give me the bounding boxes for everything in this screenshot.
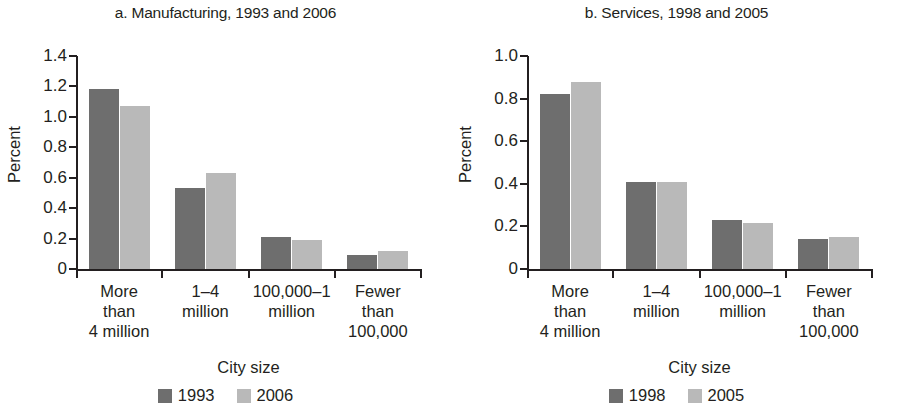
legend-swatch-icon bbox=[688, 389, 702, 403]
y-axis-tick-label-wrap: 1.0 bbox=[0, 108, 67, 125]
x-axis-tick bbox=[785, 269, 787, 278]
x-axis-tick bbox=[527, 269, 529, 278]
bar-2005-1 bbox=[657, 182, 687, 269]
x-axis-tick bbox=[699, 269, 701, 278]
y-axis-tick-label: 0 bbox=[456, 260, 518, 277]
x-axis-tick bbox=[248, 269, 250, 278]
panel-a-x-axis-title: City size bbox=[76, 358, 421, 377]
y-axis-tick bbox=[69, 55, 77, 57]
y-axis-tick-label: 0.8 bbox=[5, 138, 67, 155]
panel-b-legend: 19982005 bbox=[451, 386, 902, 405]
y-axis-tick-label-wrap: 1.0 bbox=[451, 47, 518, 64]
legend-item-2006[interactable]: 2006 bbox=[237, 386, 294, 405]
y-axis-tick bbox=[69, 207, 77, 209]
bar-1998-1 bbox=[626, 182, 656, 269]
y-axis-tick-label-wrap: 0.8 bbox=[451, 90, 518, 107]
legend-swatch-icon bbox=[609, 389, 623, 403]
y-axis-tick-label: 0.2 bbox=[456, 217, 518, 234]
bar-2006-1 bbox=[206, 173, 236, 269]
y-axis-tick-label: 0 bbox=[5, 260, 67, 277]
y-axis-tick bbox=[520, 183, 528, 185]
y-axis-tick bbox=[69, 116, 77, 118]
bar-1993-3 bbox=[347, 255, 377, 269]
y-axis-tick-label: 0.8 bbox=[456, 90, 518, 107]
x-axis-tick bbox=[161, 269, 163, 278]
legend-swatch-icon bbox=[158, 389, 172, 403]
y-axis-tick-label: 0.4 bbox=[456, 175, 518, 192]
legend-label: 1998 bbox=[629, 386, 666, 405]
legend-item-1998[interactable]: 1998 bbox=[609, 386, 666, 405]
y-axis-tick bbox=[520, 55, 528, 57]
y-axis-tick-label-wrap: 0.2 bbox=[451, 217, 518, 234]
x-axis-tick bbox=[76, 269, 78, 278]
figure-two-panel-bar-charts: a. Manufacturing, 1993 and 2006 Percent … bbox=[0, 0, 902, 412]
y-axis-tick bbox=[520, 140, 528, 142]
bar-2006-0 bbox=[120, 106, 150, 269]
y-axis-tick-label-wrap: 0.8 bbox=[0, 138, 67, 155]
panel-b-services: b. Services, 1998 and 2005 Percent City … bbox=[451, 0, 902, 412]
panel-b-x-axis-title: City size bbox=[527, 358, 872, 377]
legend-label: 2005 bbox=[708, 386, 745, 405]
x-axis-tick bbox=[420, 269, 422, 278]
x-axis-category-label: Fewer than 100,000 bbox=[778, 281, 880, 341]
y-axis-tick-label: 1.2 bbox=[5, 77, 67, 94]
bar-1998-3 bbox=[798, 239, 828, 269]
legend-label: 1993 bbox=[178, 386, 215, 405]
panel-a-plot-area: Percent City size 00.20.40.60.81.01.21.4… bbox=[0, 0, 451, 412]
bar-1993-1 bbox=[175, 188, 205, 269]
panel-a-manufacturing: a. Manufacturing, 1993 and 2006 Percent … bbox=[0, 0, 451, 412]
y-axis-tick bbox=[520, 225, 528, 227]
y-axis-tick-label: 1.0 bbox=[5, 108, 67, 125]
bar-2005-2 bbox=[743, 223, 773, 269]
y-axis-tick-label: 1.0 bbox=[456, 47, 518, 64]
x-axis-tick bbox=[334, 269, 336, 278]
y-axis-tick bbox=[69, 85, 77, 87]
y-axis-tick-label: 0.4 bbox=[5, 199, 67, 216]
y-axis-tick bbox=[69, 238, 77, 240]
bar-1998-0 bbox=[540, 94, 570, 269]
y-axis-tick bbox=[520, 98, 528, 100]
y-axis-tick-label: 0.6 bbox=[5, 169, 67, 186]
panel-a-legend: 19932006 bbox=[0, 386, 451, 405]
y-axis-tick bbox=[69, 177, 77, 179]
y-axis-tick-label-wrap: 0.6 bbox=[451, 132, 518, 149]
panel-b-y-axis bbox=[527, 56, 529, 271]
bar-1993-2 bbox=[261, 237, 291, 269]
bar-1993-0 bbox=[89, 89, 119, 269]
panel-b-plot-area: Percent City size 00.20.40.60.81.0More t… bbox=[451, 0, 902, 412]
y-axis-tick-label: 0.6 bbox=[456, 132, 518, 149]
y-axis-tick-label: 1.4 bbox=[5, 47, 67, 64]
legend-item-1993[interactable]: 1993 bbox=[158, 386, 215, 405]
x-axis-category-label: Fewer than 100,000 bbox=[327, 281, 429, 341]
legend-item-2005[interactable]: 2005 bbox=[688, 386, 745, 405]
y-axis-tick-label-wrap: 0.4 bbox=[0, 199, 67, 216]
y-axis-tick-label: 0.2 bbox=[5, 230, 67, 247]
x-axis-tick bbox=[612, 269, 614, 278]
y-axis-tick-label-wrap: 0.4 bbox=[451, 175, 518, 192]
y-axis-tick-label-wrap: 0 bbox=[451, 260, 518, 277]
y-axis-tick-label-wrap: 1.2 bbox=[0, 77, 67, 94]
bar-1998-2 bbox=[712, 220, 742, 269]
bar-2006-2 bbox=[292, 240, 322, 269]
y-axis-tick bbox=[69, 146, 77, 148]
legend-swatch-icon bbox=[237, 389, 251, 403]
y-axis-tick-label-wrap: 0.6 bbox=[0, 169, 67, 186]
bar-2005-3 bbox=[829, 237, 859, 269]
bar-2006-3 bbox=[378, 251, 408, 269]
legend-label: 2006 bbox=[257, 386, 294, 405]
bar-2005-0 bbox=[571, 82, 601, 269]
y-axis-tick-label-wrap: 0.2 bbox=[0, 230, 67, 247]
y-axis-tick-label-wrap: 0 bbox=[0, 260, 67, 277]
x-axis-tick bbox=[871, 269, 873, 278]
y-axis-tick-label-wrap: 1.4 bbox=[0, 47, 67, 64]
